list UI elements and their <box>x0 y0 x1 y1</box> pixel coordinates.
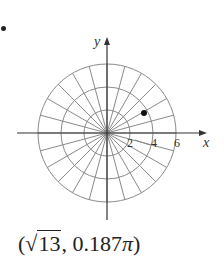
tick-2: 2 <box>127 136 133 150</box>
sqrt-arg: 13 <box>37 230 61 257</box>
point-caption: (√13, 0.187π) <box>18 230 140 257</box>
x-axis-label: x <box>202 135 210 150</box>
pi-symbol: π <box>122 231 133 256</box>
y-axis-label: y <box>92 34 101 49</box>
close-paren: ) <box>133 231 140 256</box>
y-arrow-icon <box>104 37 110 45</box>
tick-labels: 2 4 6 <box>127 136 180 150</box>
open-paren: ( <box>18 231 25 256</box>
tick-4: 4 <box>151 136 157 150</box>
caption-angle: , 0.187 <box>61 231 122 256</box>
tick-6: 6 <box>174 136 180 150</box>
sqrt-expr: √13 <box>25 230 61 257</box>
data-point <box>141 110 147 116</box>
